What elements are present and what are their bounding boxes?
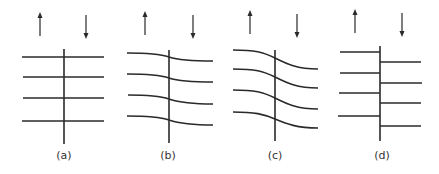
up-arrow-icon xyxy=(38,12,43,36)
down-arrow-icon xyxy=(295,14,300,38)
panel-a: (a) xyxy=(22,12,104,162)
panel-label: (d) xyxy=(374,149,390,162)
up-arrow-icon xyxy=(248,10,253,34)
shear-diagram: (a) (b) (c) xyxy=(0,0,439,174)
down-arrow-icon xyxy=(191,15,196,39)
panel-label: (a) xyxy=(56,149,71,162)
up-arrow-icon xyxy=(353,9,358,33)
panel-c: (c) xyxy=(233,10,318,162)
panel-d: (d) xyxy=(338,9,422,162)
down-arrow-icon xyxy=(84,15,89,39)
marker-line xyxy=(127,116,213,125)
panel-label: (b) xyxy=(160,149,176,162)
panel-label: (c) xyxy=(268,149,283,162)
marker-line xyxy=(127,53,213,61)
down-arrow-icon xyxy=(400,13,405,37)
marker-line xyxy=(128,95,213,104)
marker-line xyxy=(127,74,213,82)
up-arrow-icon xyxy=(143,11,148,35)
panel-b: (b) xyxy=(127,11,213,162)
